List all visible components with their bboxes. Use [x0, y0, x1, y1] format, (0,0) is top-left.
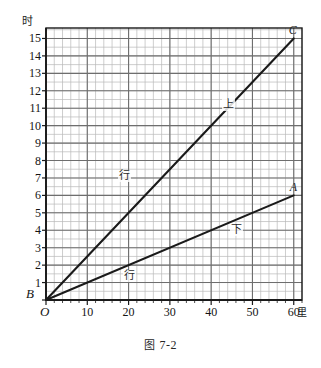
- x-axis-tick-label: 40: [196, 306, 226, 318]
- chart-annotation-label: 下: [230, 224, 243, 236]
- y-axis-tick-label: 13: [19, 67, 41, 79]
- x-axis-tick-label: 50: [237, 306, 267, 318]
- caption-prefix: 图: [144, 339, 156, 352]
- y-axis-unit-label: 时: [22, 16, 33, 28]
- figure-caption: 图 7-2: [0, 336, 321, 353]
- y-axis-tick-label: 4: [19, 224, 41, 236]
- chart-annotation-label: 行: [123, 270, 136, 282]
- y-axis-tick-label: 10: [19, 120, 41, 132]
- y-axis-tick-label: 15: [19, 32, 41, 44]
- y-axis-tick-label: 3: [19, 242, 41, 254]
- y-axis-tick-label: 12: [19, 85, 41, 97]
- origin-label: O: [40, 305, 49, 318]
- figure-container: 时 123456789101112131415 B O 102030405060…: [0, 0, 321, 368]
- point-label-a: A: [290, 181, 297, 193]
- y-axis-tick-label: 14: [19, 50, 41, 62]
- y-axis-tick-label: 8: [19, 155, 41, 167]
- chart-annotation-label: 行: [118, 170, 131, 182]
- x-axis-tick-label: 30: [155, 306, 185, 318]
- x-axis-tick-label: 20: [114, 306, 144, 318]
- point-label-c: C: [289, 24, 297, 36]
- y-axis-tick-label: 11: [19, 102, 41, 114]
- y-axis-tick-label: 2: [19, 259, 41, 271]
- x-axis-tick-label: 10: [72, 306, 102, 318]
- y-axis-tick-label: 5: [19, 207, 41, 219]
- y-axis-tick-label: 7: [19, 172, 41, 184]
- y-axis-tick-label: 9: [19, 137, 41, 149]
- caption-number: 7-2: [160, 338, 178, 352]
- y-origin-label: B: [26, 287, 34, 300]
- y-axis-tick-label: 6: [19, 189, 41, 201]
- chart-annotation-label: 上: [222, 99, 235, 111]
- x-axis-unit-label: 里: [297, 307, 307, 318]
